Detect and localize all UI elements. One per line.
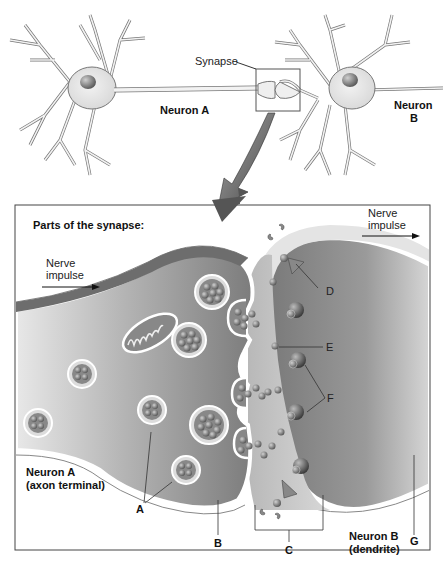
- neuron-b-detail-line1: Neuron B: [349, 530, 399, 542]
- neuron-b-detail-line2: (dendrite): [349, 543, 400, 555]
- neuron-a-label: Neuron A: [160, 104, 209, 116]
- part-label-g: G: [410, 535, 419, 547]
- synapse-label: Synapse: [195, 55, 238, 67]
- part-label-d: D: [326, 285, 334, 297]
- part-label-b: B: [214, 537, 222, 549]
- part-label-e: E: [326, 341, 333, 353]
- part-label-f: F: [327, 392, 334, 404]
- impulse-left-line2: impulse: [46, 269, 84, 281]
- neuron-b-label-line1: Neuron: [394, 99, 433, 111]
- neuron-b-label-line2: B: [410, 112, 418, 124]
- impulse-right-line2: impulse: [368, 219, 406, 231]
- detail-title: Parts of the synapse:: [33, 219, 144, 231]
- neuron-a-detail-line2: (axon terminal): [26, 479, 105, 491]
- part-label-a: A: [136, 503, 144, 515]
- zoom-arrow: [218, 113, 275, 208]
- neuron-a-overview: [10, 15, 275, 175]
- part-label-c: C: [285, 544, 293, 556]
- impulse-right-line1: Nerve: [368, 207, 397, 219]
- impulse-left-line1: Nerve: [46, 257, 75, 269]
- neuron-a-detail-line1: Neuron A: [26, 466, 75, 478]
